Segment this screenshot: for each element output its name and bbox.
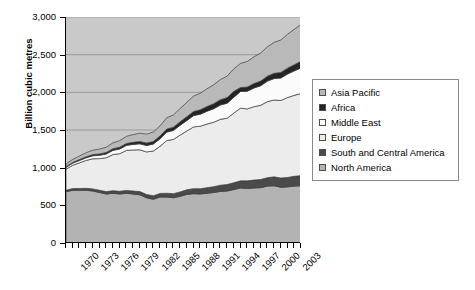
x-axis-tick [146, 243, 147, 248]
x-axis-tick [287, 243, 288, 248]
x-axis-label: 1997 [259, 250, 282, 273]
legend-item-label: Africa [331, 102, 355, 113]
chart-legend: Asia PacificAfricaMiddle EastEuropeSouth… [312, 79, 459, 181]
x-axis-tick [226, 243, 227, 248]
x-axis-tick [92, 243, 93, 248]
y-axis-label: 1,000 [12, 163, 56, 173]
x-axis-label: 1991 [219, 250, 242, 273]
x-axis-tick [65, 243, 66, 248]
x-axis-tick [206, 243, 207, 248]
x-axis-tick [172, 243, 173, 248]
y-axis-label: 2,000 [12, 87, 56, 97]
x-axis-label: 1970 [78, 250, 101, 273]
x-axis-tick [105, 243, 106, 248]
legend-swatch-icon [319, 119, 326, 126]
x-axis-tick [273, 243, 274, 248]
x-axis-tick [179, 243, 180, 248]
x-axis-tick [266, 243, 267, 248]
x-axis-tick [219, 243, 220, 248]
x-axis-tick [233, 243, 234, 248]
x-axis-tick [186, 243, 187, 248]
x-axis-tick [166, 243, 167, 248]
x-axis-tick [152, 243, 153, 248]
legend-item[interactable]: South and Central America [319, 145, 453, 160]
legend-swatch-icon [319, 164, 326, 171]
x-axis-label: 1973 [98, 250, 121, 273]
x-axis-tick [280, 243, 281, 248]
legend-item-label: Europe [331, 132, 362, 143]
y-axis-title: Billion cubic metres [23, 4, 34, 164]
x-axis-label: 1976 [118, 250, 141, 273]
x-axis-tick [132, 243, 133, 248]
y-axis-label: 2,500 [12, 50, 56, 60]
x-axis-tick [260, 243, 261, 248]
legend-item[interactable]: Africa [319, 100, 453, 115]
legend-item-label: Middle East [331, 117, 381, 128]
x-axis-tick [213, 243, 214, 248]
legend-swatch-icon [319, 134, 326, 141]
legend-item-label: Asia Pacific [331, 87, 380, 98]
x-axis-tick [72, 243, 73, 248]
chart-root: Billion cubic metres 05001,0001,5002,000… [0, 0, 475, 290]
plot-area [65, 17, 300, 243]
x-axis-label: 2003 [300, 250, 323, 273]
legend-item[interactable]: North America [319, 160, 453, 175]
x-axis-tick [300, 243, 301, 248]
x-axis-tick [119, 243, 120, 248]
x-axis-tick [125, 243, 126, 248]
legend-swatch-icon [319, 149, 326, 156]
x-axis-label: 1988 [199, 250, 222, 273]
legend-item[interactable]: Middle East [319, 115, 453, 130]
x-axis-label: 1985 [179, 250, 202, 273]
legend-item-label: North America [331, 162, 391, 173]
x-axis-label: 1982 [159, 250, 182, 273]
y-axis-label: 500 [12, 200, 56, 210]
x-axis-tick [293, 243, 294, 248]
y-axis-label: 3,000 [12, 12, 56, 22]
x-axis-tick [246, 243, 247, 248]
x-axis-label: 1979 [139, 250, 162, 273]
legend-swatch-icon [319, 89, 326, 96]
x-axis-tick [193, 243, 194, 248]
x-axis-label: 2000 [280, 250, 303, 273]
x-axis-tick [199, 243, 200, 248]
legend-item[interactable]: Asia Pacific [319, 85, 453, 100]
legend-swatch-icon [319, 104, 326, 111]
x-axis-tick [240, 243, 241, 248]
x-axis-tick [85, 243, 86, 248]
x-axis-tick [99, 243, 100, 248]
x-axis-tick [112, 243, 113, 248]
x-axis-tick [253, 243, 254, 248]
x-axis-tick [139, 243, 140, 248]
x-axis-tick [159, 243, 160, 248]
y-axis-label: 0 [12, 238, 56, 248]
stacked-area-series [66, 17, 300, 243]
x-axis-tick [78, 243, 79, 248]
x-axis-label: 1994 [239, 250, 262, 273]
y-axis-label: 1,500 [12, 125, 56, 135]
legend-item[interactable]: Europe [319, 130, 453, 145]
legend-item-label: South and Central America [331, 147, 445, 158]
